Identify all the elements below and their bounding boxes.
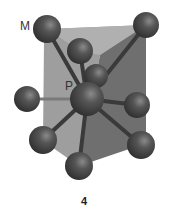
atom-lower-right <box>127 131 155 159</box>
label-m: M <box>20 19 30 33</box>
atom-right <box>124 92 150 118</box>
atom-lower-left <box>29 126 57 154</box>
atom-m <box>33 15 61 43</box>
label-p: P <box>65 79 73 93</box>
atom-front-top <box>67 38 93 64</box>
atom-top-right <box>133 12 159 38</box>
figure-caption-number: 4 <box>81 195 87 207</box>
atom-bottom <box>65 152 93 180</box>
atom-p-center <box>70 82 104 116</box>
atom-left <box>14 86 40 112</box>
